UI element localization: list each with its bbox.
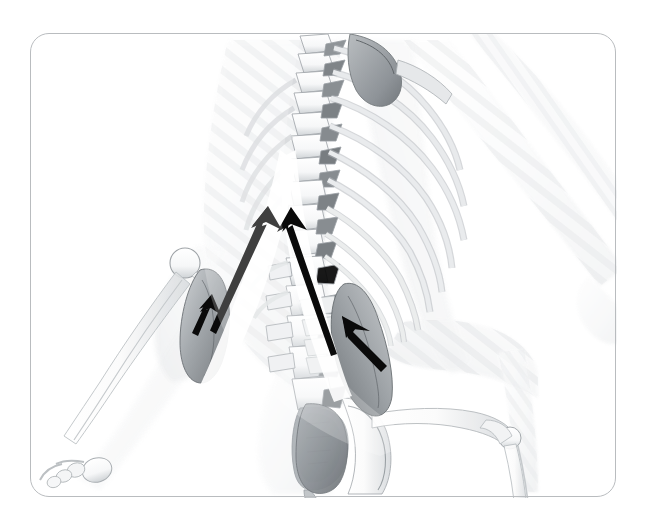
anatomy-illustration: [0, 0, 653, 528]
illustration-stage: Lumbar spine and trunk musculature, late…: [0, 0, 653, 528]
